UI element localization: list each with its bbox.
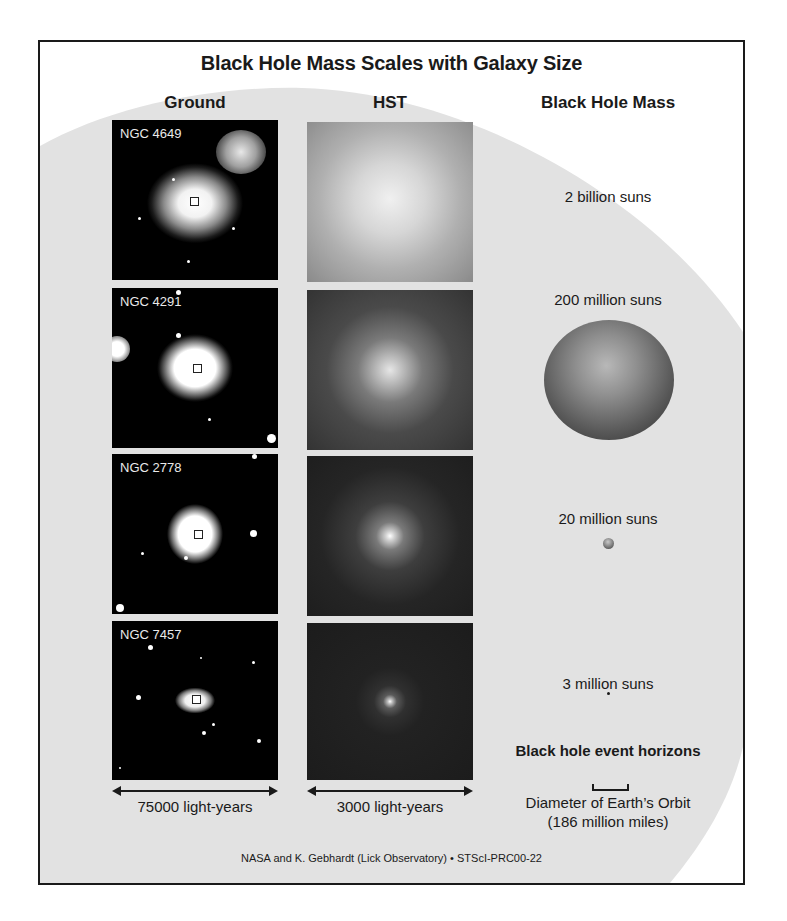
column-header-ground: Ground bbox=[112, 93, 278, 113]
ground-image-ngc4291: NGC 4291 bbox=[112, 288, 278, 448]
event-horizon-sphere-medium bbox=[603, 538, 614, 549]
event-horizon-sphere-large bbox=[544, 320, 674, 440]
mass-label: 200 million suns bbox=[498, 291, 718, 308]
ground-scale-label: 75000 light-years bbox=[100, 798, 290, 815]
legend-line1: Diameter of Earth’s Orbit bbox=[478, 794, 738, 811]
column-header-hst: HST bbox=[307, 93, 473, 113]
galaxy-label: NGC 4291 bbox=[120, 294, 181, 309]
legend-heading: Black hole event horizons bbox=[488, 742, 728, 759]
event-horizon-sphere-small bbox=[607, 692, 610, 695]
mass-label: 2 billion suns bbox=[498, 188, 718, 205]
hst-image-ngc7457 bbox=[307, 623, 473, 780]
hst-scale-label: 3000 light-years bbox=[295, 798, 485, 815]
galaxy-label: NGC 4649 bbox=[120, 126, 181, 141]
figure-frame: Black Hole Mass Scales with Galaxy Size … bbox=[38, 40, 745, 885]
figure-title: Black Hole Mass Scales with Galaxy Size bbox=[40, 52, 743, 75]
hst-field-marker bbox=[192, 695, 201, 704]
column-header-mass: Black Hole Mass bbox=[498, 93, 718, 113]
galaxy-label: NGC 2778 bbox=[120, 460, 181, 475]
hst-image-ngc2778 bbox=[307, 456, 473, 616]
ground-scale-arrow bbox=[114, 790, 276, 792]
galaxy-label: NGC 7457 bbox=[120, 627, 181, 642]
earth-orbit-scale-bracket bbox=[592, 784, 629, 791]
ground-image-ngc7457: NGC 7457 bbox=[112, 621, 278, 780]
hst-image-ngc4649 bbox=[307, 122, 473, 282]
ground-image-ngc2778: NGC 2778 bbox=[112, 454, 278, 614]
hst-field-marker bbox=[194, 530, 203, 539]
ground-image-ngc4649: NGC 4649 bbox=[112, 120, 278, 280]
hst-image-ngc4291 bbox=[307, 290, 473, 450]
hst-scale-arrow bbox=[309, 790, 471, 792]
hst-field-marker bbox=[190, 197, 199, 206]
mass-label: 20 million suns bbox=[498, 510, 718, 527]
mass-label: 3 million suns bbox=[498, 675, 718, 692]
legend-line2: (186 million miles) bbox=[478, 813, 738, 830]
credit-line: NASA and K. Gebhardt (Lick Observatory) … bbox=[40, 852, 743, 864]
companion-galaxy bbox=[216, 130, 266, 174]
hst-field-marker bbox=[193, 364, 202, 373]
